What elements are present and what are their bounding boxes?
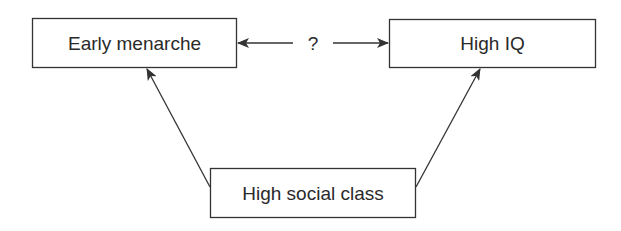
node-label: High IQ — [460, 33, 524, 54]
edge-question-label: ? — [308, 33, 319, 54]
edge-social-class-to-menarche — [147, 69, 210, 187]
node-label: Early menarche — [68, 33, 201, 54]
node-early-menarche: Early menarche — [33, 19, 237, 68]
node-label: High social class — [242, 183, 384, 204]
node-high-iq: High IQ — [390, 20, 596, 68]
node-high-social-class: High social class — [211, 169, 416, 218]
edge-social-class-to-iq — [416, 69, 480, 187]
causal-diagram: Early menarche High IQ High social class… — [0, 0, 621, 231]
